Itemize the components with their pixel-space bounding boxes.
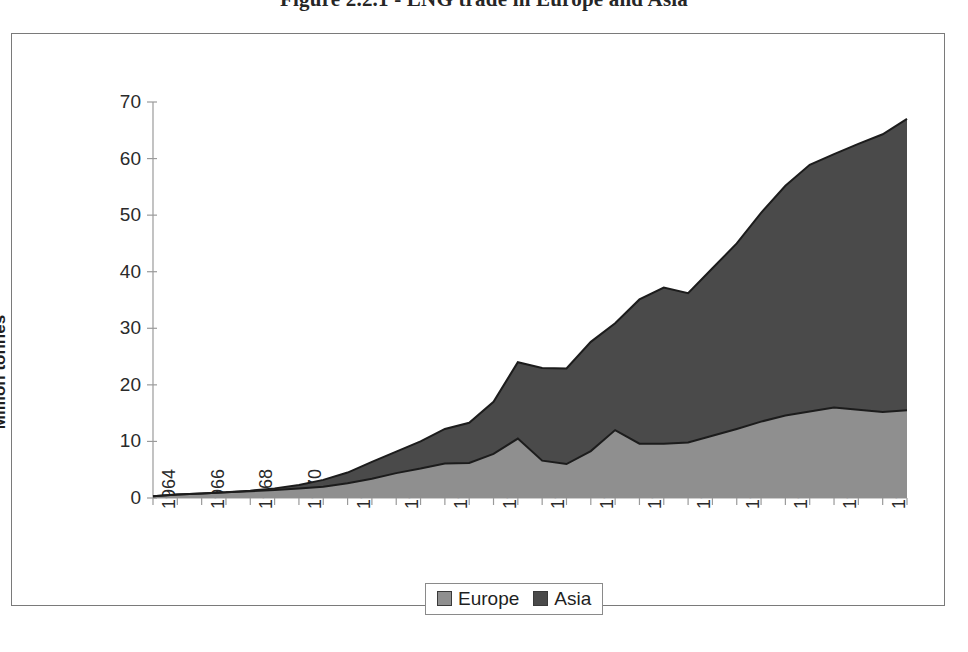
plot-area bbox=[153, 102, 907, 498]
y-axis-tick-label: 20 bbox=[95, 375, 141, 394]
legend-label: Asia bbox=[554, 589, 591, 608]
figure-caption: Figure 2.2.1 - LNG trade in Europe and A… bbox=[0, 0, 968, 12]
legend-entry-europe[interactable]: Europe bbox=[437, 589, 519, 608]
y-axis-tick-label: 60 bbox=[95, 149, 141, 168]
legend-swatch-icon bbox=[437, 591, 452, 606]
y-axis-title: Million tonnes bbox=[0, 262, 10, 482]
y-axis-tick-label: 70 bbox=[95, 92, 141, 111]
chart-frame: Million tonnes 010203040506070 196419661… bbox=[11, 33, 945, 606]
y-axis-tick-label: 30 bbox=[95, 318, 141, 337]
series-areas bbox=[153, 119, 907, 498]
y-axis-tick-label: 10 bbox=[95, 431, 141, 450]
y-axis-tick-label: 50 bbox=[95, 205, 141, 224]
chart-legend: EuropeAsia bbox=[425, 583, 603, 615]
y-axis-tick-label: 0 bbox=[95, 488, 141, 507]
legend-entry-asia[interactable]: Asia bbox=[533, 589, 591, 608]
legend-swatch-icon bbox=[533, 591, 548, 606]
stacked-area-chart bbox=[153, 102, 907, 498]
y-axis-tick-label: 40 bbox=[95, 262, 141, 281]
legend-label: Europe bbox=[458, 589, 519, 608]
